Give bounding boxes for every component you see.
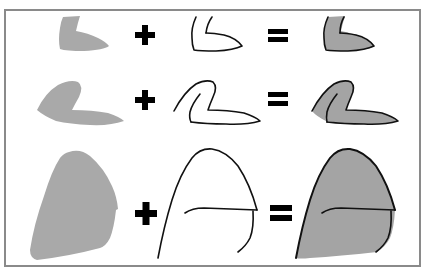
diagram-canvas <box>0 0 433 277</box>
outline-strokes-small <box>192 17 242 51</box>
row-large <box>30 149 395 260</box>
fill-shape-small <box>59 16 109 51</box>
row-medium <box>37 81 398 125</box>
combined-shape-small <box>324 16 374 51</box>
plus-icon <box>135 202 157 225</box>
plus-icon <box>135 90 155 110</box>
fill-shape-medium <box>37 81 124 125</box>
fill-shape-large <box>30 151 118 260</box>
outline-strokes-medium <box>174 81 260 124</box>
plus-icon <box>135 25 155 45</box>
outline-strokes-large <box>158 149 257 258</box>
combined-shape-large <box>296 149 395 259</box>
combined-shape-medium <box>312 81 398 124</box>
row-small <box>59 16 374 51</box>
equals-icon <box>268 29 288 42</box>
equals-icon <box>268 92 288 106</box>
equals-icon <box>270 205 292 221</box>
